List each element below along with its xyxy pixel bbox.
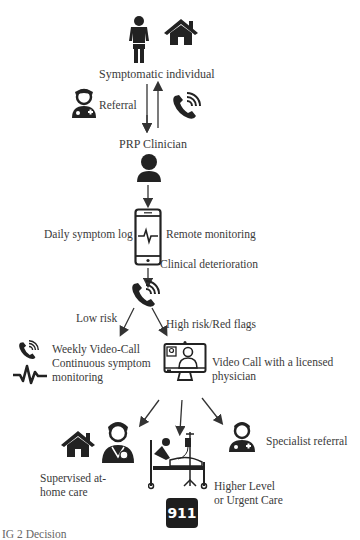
supervised-label: Supervised at-: [40, 472, 106, 485]
clinician-icon: [136, 152, 162, 182]
smartphone-monitor-icon: [134, 208, 162, 266]
doctor-icon: [70, 88, 98, 118]
urgent-care-label: or Urgent Care: [214, 494, 283, 507]
prp-clinician-label: PRP Clinician: [119, 138, 187, 151]
telemedicine-monitor-icon: [163, 340, 207, 382]
high-risk-label: High risk/Red flags: [166, 318, 256, 331]
referral-label: Referral: [99, 99, 137, 112]
home-care-label: home care: [40, 486, 88, 499]
clinical-deterioration-label: Clinical deterioration: [160, 258, 258, 271]
home-care-house-icon: [60, 430, 96, 458]
house-icon: [163, 18, 199, 46]
person-icon: [128, 14, 150, 64]
weekly-videocall-label: Weekly Video-Call: [52, 343, 140, 356]
caregiver-icon: [100, 421, 136, 463]
hospital-bed-icon: [148, 432, 212, 490]
heartbeat-icon: [12, 363, 48, 385]
phone-icon: [172, 92, 202, 120]
figure-caption: IG 2 Decision: [2, 528, 67, 540]
videocall-physician-label: Video Call with a licensed: [212, 356, 333, 369]
higher-level-label: Higher Level: [214, 480, 275, 493]
continuous-monitoring-label: Continuous symptom: [52, 357, 151, 370]
daily-symptom-log-label: Daily symptom log: [44, 228, 133, 241]
triage-phone-icon: [131, 280, 161, 308]
monitoring-label: monitoring: [52, 371, 103, 384]
emergency-911-icon: 911: [166, 498, 198, 528]
specialist-doctor-icon: [228, 420, 256, 452]
symptomatic-individual-label: Symptomatic individual: [99, 68, 215, 81]
physician-label: physician: [212, 370, 256, 383]
specialist-referral-label: Specialist referral: [266, 435, 347, 448]
low-risk-label: Low risk: [76, 312, 117, 325]
weekly-phone-icon: [18, 340, 40, 360]
remote-monitoring-label: Remote monitoring: [166, 228, 256, 241]
